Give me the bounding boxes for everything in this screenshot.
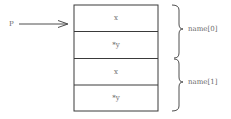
brace-name-0 xyxy=(172,5,183,58)
cell-y-0: *y xyxy=(74,32,158,58)
cell-y-1: *y xyxy=(74,85,158,111)
cell-x-1: x xyxy=(74,59,158,85)
pointer-arrow xyxy=(19,21,68,28)
pointer-label: P xyxy=(9,20,14,28)
brace-name-1 xyxy=(172,59,183,111)
cell-x-0: x xyxy=(74,5,158,31)
group-label-name-0: name[0] xyxy=(188,25,217,33)
group-label-name-1: name[1] xyxy=(188,78,217,86)
